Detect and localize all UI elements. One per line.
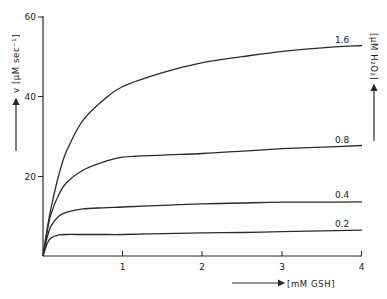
x-ticks: 1 2 3 4 [120, 251, 365, 272]
y-axis-title: v [μM sec⁻¹] [11, 34, 21, 93]
right-axis-title: [μM H₂O₂] [369, 33, 379, 80]
x-axis-title-group: [mM GSH] [232, 279, 335, 289]
y-tick-label: 60 [25, 12, 37, 22]
kinetics-chart: 20 40 60 1 2 3 4 1.6 0.8 0.4 0.2 v [μM s… [0, 0, 387, 299]
x-tick-label: 3 [279, 262, 285, 272]
axes [43, 16, 362, 256]
x-axis-title: [mM GSH] [287, 279, 335, 289]
curve-0-8 [43, 146, 362, 257]
curve-label-0-8: 0.8 [335, 135, 350, 145]
x-tick-label: 4 [359, 262, 365, 272]
curve-1-6 [43, 46, 362, 257]
y-tick-label: 40 [25, 92, 37, 102]
curve-labels: 1.6 0.8 0.4 0.2 [335, 35, 350, 229]
right-axis-title-group: [μM H₂O₂] [369, 33, 379, 141]
x-tick-label: 2 [199, 262, 205, 272]
y-tick-label: 20 [25, 172, 37, 182]
y-axis-title-group: v [μM sec⁻¹] [11, 34, 21, 151]
curve-label-0-4: 0.4 [335, 190, 350, 200]
curve-label-1-6: 1.6 [335, 35, 350, 45]
curve-label-0-2: 0.2 [335, 219, 349, 229]
y-ticks: 20 40 60 [25, 12, 43, 182]
x-tick-label: 1 [120, 262, 126, 272]
curves [43, 46, 362, 257]
curve-0-4 [43, 202, 362, 256]
